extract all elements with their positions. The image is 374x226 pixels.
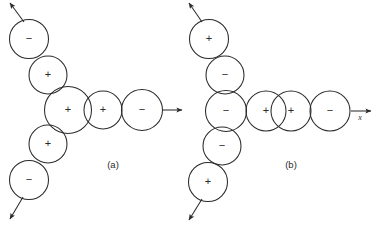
panel-b: +−−−+++−(b)x	[189, 3, 372, 220]
panel-a: −+++−+−(a)	[10, 3, 183, 219]
figure-root: −+++−+−(a)+−−−+++−(b)x	[0, 0, 374, 226]
b-center-sign: −	[223, 104, 229, 116]
a-row-2: +	[84, 91, 122, 129]
a-arrow-lower-left	[10, 197, 23, 219]
b-row-3-sign: +	[288, 104, 294, 116]
b-chain-lower-1: −	[203, 127, 241, 165]
b-row-4: −	[310, 91, 350, 131]
b-chain-upper-2: −	[206, 56, 244, 94]
a-chain-lower-1: +	[29, 125, 67, 163]
a-chain-lower-2: −	[10, 161, 49, 200]
b-row-3: +	[271, 91, 311, 131]
a-chain-upper-2-sign: +	[45, 68, 51, 80]
b-chain-upper-1-sign: +	[206, 32, 212, 44]
b-center: −	[206, 91, 247, 132]
b-row-4-sign: −	[327, 104, 333, 116]
a-row-3-sign: −	[139, 103, 145, 115]
b-arrow-upper-left	[189, 3, 202, 22]
a-chain-upper-1: −	[10, 20, 49, 59]
a-chain-lower-2-sign: −	[26, 173, 32, 185]
b-arrow-lower-left	[189, 199, 202, 220]
a-chain-upper-1-sign: −	[26, 32, 32, 44]
a-row-2-sign: +	[100, 103, 106, 115]
b-chain-upper-1: +	[190, 20, 229, 59]
a-chain-upper-2: +	[29, 56, 67, 94]
b-chain-upper-2-sign: −	[222, 68, 228, 80]
b-chain-lower-2-sign: +	[205, 175, 211, 187]
b-chain-lower-1-sign: −	[219, 139, 225, 151]
a-row-3: −	[122, 90, 163, 131]
b-chain-lower-2: +	[189, 163, 228, 202]
a-chain-lower-1-sign: +	[45, 137, 51, 149]
domain-chain-figure: −+++−+−(a)+−−−+++−(b)x	[0, 0, 374, 226]
a-arrow-upper-left	[10, 3, 24, 22]
panel-caption-a: (a)	[107, 159, 119, 170]
b-row-2-sign: +	[263, 104, 269, 116]
panel-caption-b: (b)	[285, 159, 297, 170]
axis-label-b: x	[357, 113, 362, 122]
b-row-2: +	[246, 91, 286, 131]
a-center-sign: +	[65, 103, 71, 115]
